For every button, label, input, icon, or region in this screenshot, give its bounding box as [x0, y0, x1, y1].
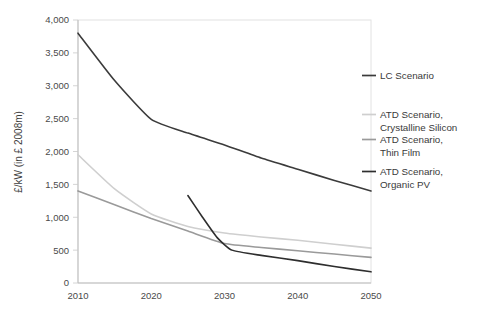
legend-label: LC Scenario [380, 70, 434, 81]
series-line [78, 33, 371, 191]
x-tick-label: 2020 [141, 290, 162, 301]
x-tick-label: 2010 [67, 290, 88, 301]
chart-legend: LC ScenarioATD Scenario,Crystalline Sili… [362, 70, 457, 190]
y-tick-label: 2,000 [45, 146, 69, 157]
y-tick-label: 3,500 [45, 47, 69, 58]
legend-label: ATD Scenario, [380, 109, 443, 120]
x-tick-label: 2040 [287, 290, 308, 301]
series-line [78, 191, 371, 257]
x-axis-labels: 20102020203020402050 [67, 290, 381, 301]
line-chart: 05001,0001,5002,0002,5003,0003,5004,000 … [0, 0, 494, 322]
y-axis-title: £/kW (in £ 2008m) [13, 111, 24, 193]
series-lines [78, 33, 371, 272]
y-tick-label: 4,000 [45, 14, 69, 25]
y-axis-labels: 05001,0001,5002,0002,5003,0003,5004,000 [45, 14, 69, 288]
y-tick-label: 3,000 [45, 80, 69, 91]
legend-label: ATD Scenario, [380, 166, 443, 177]
legend-label-line2: Thin Film [380, 147, 420, 158]
y-tick-label: 1,000 [45, 212, 69, 223]
series-line [78, 155, 371, 248]
y-tick-label: 500 [53, 245, 69, 256]
y-tick-label: 2,500 [45, 113, 69, 124]
y-axis-tick-group [73, 20, 78, 283]
legend-label: ATD Scenario, [380, 134, 443, 145]
x-tick-label: 2050 [360, 290, 381, 301]
chart-container: 05001,0001,5002,0002,5003,0003,5004,000 … [0, 0, 494, 322]
series-line [188, 196, 371, 272]
y-tick-label: 1,500 [45, 179, 69, 190]
y-tick-label: 0 [64, 277, 69, 288]
legend-label-line2: Organic PV [380, 179, 431, 190]
legend-label-line2: Crystalline Silicon [380, 122, 457, 133]
x-tick-label: 2030 [214, 290, 235, 301]
